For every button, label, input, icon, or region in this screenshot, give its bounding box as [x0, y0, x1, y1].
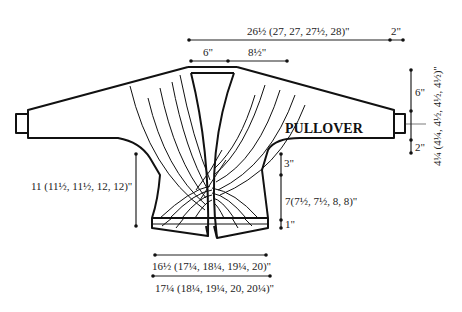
neck-half-label: 6" [203, 46, 213, 58]
band-height-label: 1" [285, 218, 295, 230]
shoulder-label: 8½" [248, 46, 266, 58]
dimension-hem-widths: 16½ (17¼, 18¼, 19¼, 20)" 17¼ (18¼, 19¼, … [151, 253, 274, 295]
dimension-body-length-left: 11 (11½, 11½, 12, 12)" [31, 152, 138, 228]
body-length-left-label: 11 (11½, 11½, 12, 12)" [31, 180, 132, 193]
total-width-label: 26½ (27, 27, 27½, 28)" [247, 25, 350, 38]
dimension-sleeve-depth: 6" 2" 4¼ (4¼, 4½, 4½, 4½)" [405, 66, 444, 166]
garment-outline [16, 67, 405, 238]
hem-width-lower-label: 17¼ (18¼, 19¼, 20, 20¼)" [155, 282, 274, 295]
dimension-neck-shoulder: 6" 8½" [189, 46, 289, 63]
sleeve-top-depth-label: 6" [415, 86, 425, 98]
pullover-schematic: 26½ (27, 27, 27½, 28)" 2" 6" 8½" [0, 0, 462, 312]
dimension-body-length-right: 3" 7(7½, 7½, 8, 8)" 1" [279, 152, 357, 230]
cuff-width-label: 2" [391, 25, 401, 37]
dimension-total-width: 26½ (27, 27, 27½, 28)" 2" [187, 25, 405, 42]
armhole-upper-label: 3" [284, 157, 294, 169]
sleeve-total-depth-label: 4¼ (4¼, 4½, 4½, 4½)" [431, 66, 444, 166]
body-length-right-label: 7(7½, 7½, 8, 8)" [285, 195, 357, 208]
pattern-title: PULLOVER [285, 121, 364, 136]
cuff-depth-label: 2" [415, 141, 425, 153]
hem-width-upper-label: 16½ (17¼, 18¼, 19¼, 20)" [152, 260, 271, 273]
